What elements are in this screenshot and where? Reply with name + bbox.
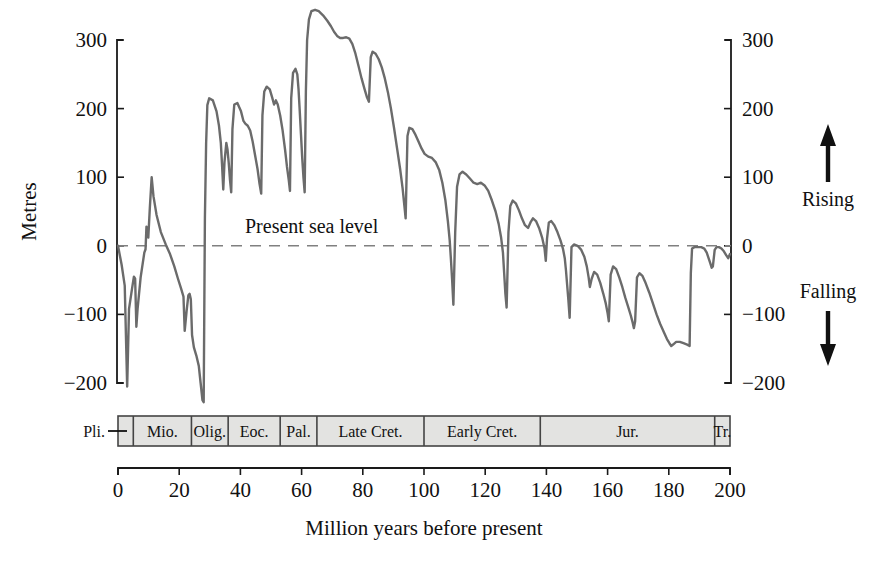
rising-label: Rising (802, 188, 854, 211)
period-label: Eoc. (240, 423, 269, 440)
time-axis-tick-label: 80 (352, 478, 373, 502)
present-sea-level-label: Present sea level (245, 215, 379, 237)
time-axis-tick-label: 0 (113, 478, 124, 502)
rising-arrow-icon (820, 124, 836, 182)
period-label: Tr. (714, 423, 732, 440)
right-axis-line (725, 40, 731, 383)
right-axis-tick-label: 0 (742, 234, 753, 258)
left-axis-tick-label: −200 (64, 371, 107, 395)
time-axis-tick-label: 140 (531, 478, 563, 502)
time-axis-tick-label: 120 (469, 478, 501, 502)
right-axis-tick-label: 100 (742, 165, 774, 189)
left-axis-line (117, 40, 123, 383)
right-axis-tick-label: 300 (742, 28, 774, 52)
left-axis-tick-label: 300 (76, 28, 108, 52)
time-axis-tick-label: 200 (714, 478, 746, 502)
sea-level-curve (118, 10, 730, 402)
period-label-pli: Pli. (83, 423, 105, 440)
period-label: Jur. (616, 423, 639, 440)
chart-canvas: 3002001000−100−2003002001000−100−200Metr… (0, 0, 887, 567)
left-axis-tick-label: −100 (64, 302, 107, 326)
right-axis-tick-label: −100 (742, 302, 785, 326)
time-axis-tick-label: 160 (592, 478, 624, 502)
period-label: Pal. (286, 423, 310, 440)
time-axis-tick-label: 60 (291, 478, 312, 502)
sea-level-chart: 3002001000−100−2003002001000−100−200Metr… (0, 0, 887, 567)
time-axis-tick-label: 20 (169, 478, 190, 502)
right-axis-tick-label: 200 (742, 97, 774, 121)
time-axis-tick-label: 100 (408, 478, 440, 502)
falling-arrow-icon (820, 311, 836, 366)
period-label: Late Cret. (338, 423, 402, 440)
x-axis-title: Million years before present (305, 516, 543, 540)
period-label: Olig. (194, 423, 226, 441)
left-axis-tick-label: 0 (97, 234, 108, 258)
period-label: Early Cret. (447, 423, 517, 441)
right-axis-tick-label: −200 (742, 371, 785, 395)
falling-label: Falling (800, 280, 857, 303)
y-axis-title: Metres (17, 182, 41, 240)
time-axis-tick-label: 180 (653, 478, 685, 502)
time-axis-tick-label: 40 (230, 478, 251, 502)
left-axis-tick-label: 100 (76, 165, 108, 189)
left-axis-tick-label: 200 (76, 97, 108, 121)
period-label: Mio. (147, 423, 178, 440)
